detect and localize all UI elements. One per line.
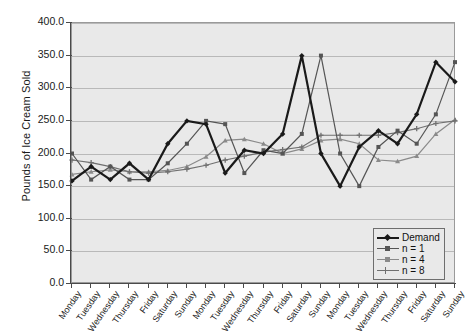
legend-label: Demand: [402, 232, 440, 243]
y-tick-label: 250.0: [0, 113, 64, 125]
x-tick-mark: [90, 283, 91, 288]
x-tick-mark: [167, 283, 168, 288]
legend-marker-icon: [377, 243, 399, 254]
x-tick-mark: [397, 283, 398, 288]
x-tick-mark: [71, 283, 72, 288]
x-tick-mark: [301, 283, 302, 288]
x-tick-mark: [224, 283, 225, 288]
y-tick-label: 350.0: [0, 48, 64, 60]
y-tick-label: 200.0: [0, 146, 64, 158]
y-tick-mark: [66, 185, 72, 186]
x-tick-mark: [186, 283, 187, 288]
y-tick-mark: [66, 153, 72, 154]
y-tick-label: 100.0: [0, 211, 64, 223]
x-tick-mark: [205, 283, 206, 288]
x-tick-mark: [263, 283, 264, 288]
x-tick-mark: [109, 283, 110, 288]
x-tick-mark: [435, 283, 436, 288]
legend-marker-icon: [377, 265, 399, 276]
legend-item[interactable]: n = 1: [377, 243, 440, 254]
legend-label: n = 1: [402, 243, 425, 254]
line-chart: Pounds of Ice Cream Sold 0.050.0100.0150…: [0, 0, 471, 334]
x-tick-mark: [339, 283, 340, 288]
y-tick-mark: [66, 250, 72, 251]
y-tick-mark: [66, 218, 72, 219]
y-tick-label: 0.0: [0, 276, 64, 288]
legend-marker-icon: [377, 254, 399, 265]
x-tick-mark: [243, 283, 244, 288]
legend-item[interactable]: Demand: [377, 232, 440, 243]
legend-item[interactable]: n = 8: [377, 265, 440, 276]
x-tick-mark: [320, 283, 321, 288]
x-tick-mark: [454, 283, 455, 288]
y-tick-mark: [66, 22, 72, 23]
x-tick-mark: [128, 283, 129, 288]
y-tick-mark: [66, 120, 72, 121]
y-tick-label: 150.0: [0, 178, 64, 190]
chart-legend: Demandn = 1n = 4n = 8: [373, 228, 445, 280]
y-tick-label: 300.0: [0, 80, 64, 92]
x-tick-mark: [358, 283, 359, 288]
y-tick-mark: [66, 55, 72, 56]
legend-item[interactable]: n = 4: [377, 254, 440, 265]
y-tick-label: 50.0: [0, 243, 64, 255]
y-tick-label: 400.0: [0, 15, 64, 27]
x-tick-mark: [416, 283, 417, 288]
x-tick-mark: [377, 283, 378, 288]
x-tick-mark: [148, 283, 149, 288]
y-tick-mark: [66, 87, 72, 88]
x-tick-mark: [282, 283, 283, 288]
legend-label: n = 4: [402, 254, 425, 265]
legend-marker-icon: [377, 232, 399, 243]
legend-label: n = 8: [402, 265, 425, 276]
